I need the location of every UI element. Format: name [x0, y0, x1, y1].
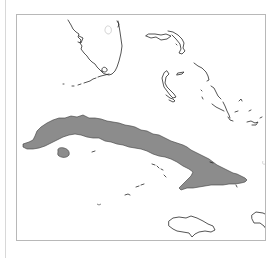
isla-de-la-juventud	[58, 148, 70, 158]
hispaniola-outline	[252, 161, 266, 229]
small-keys	[92, 151, 166, 195]
locator-map	[16, 14, 266, 241]
cuba-landmass	[23, 115, 247, 190]
florida-landmass	[63, 20, 122, 86]
cayman-islands	[97, 204, 101, 205]
bahamas-islands	[146, 31, 262, 125]
jamaica-outline	[169, 216, 215, 237]
outer-divider-line	[5, 0, 6, 258]
map-canvas	[17, 15, 266, 241]
